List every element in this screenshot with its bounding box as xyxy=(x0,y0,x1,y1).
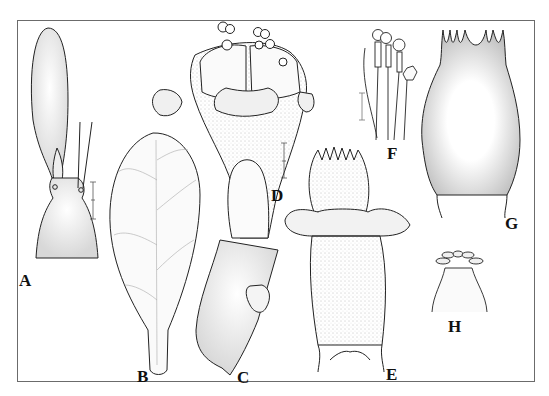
panel-h-drawing xyxy=(432,251,487,312)
panel-a-scale-bar xyxy=(90,182,96,219)
panel-label-g: G xyxy=(505,215,518,232)
panel-g-drawing xyxy=(422,30,520,218)
panel-b-drawing xyxy=(110,133,200,375)
panel-label-b: B xyxy=(137,368,148,385)
panel-c-drawing xyxy=(196,240,278,375)
panel-label-a: A xyxy=(19,272,31,289)
panel-f-drawing xyxy=(364,30,417,141)
panel-label-c: C xyxy=(237,369,249,386)
panel-e-drawing xyxy=(285,147,410,372)
panel-label-d: D xyxy=(271,187,283,204)
panel-a-drawing xyxy=(31,28,98,258)
panel-f-scale-bar xyxy=(359,93,365,120)
panel-label-h: H xyxy=(448,318,461,335)
panel-label-e: E xyxy=(386,366,397,383)
panel-label-f: F xyxy=(387,145,397,162)
